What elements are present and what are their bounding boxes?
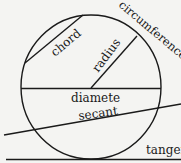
chord-label: chord [48, 26, 84, 59]
secant-label: secant [77, 104, 118, 123]
circle-parts-diagram: chord radius circumference diamete secan… [0, 0, 181, 163]
tangent-label: tangent [146, 143, 181, 157]
radius-label: radius [89, 36, 123, 75]
diameter-label: diamete [71, 91, 120, 105]
diagram-canvas: chord radius circumference diamete secan… [0, 0, 181, 163]
circumference-label: circumference [116, 0, 181, 63]
